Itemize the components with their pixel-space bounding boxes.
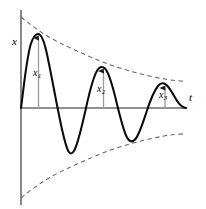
amplitude-label-x1-subscript: 1 xyxy=(37,72,41,80)
t-axis-label: t xyxy=(189,92,192,103)
damped-oscillation-figure: x t x1 x2 x3 xyxy=(0,0,206,209)
amplitude-label-x2: x2 xyxy=(97,84,105,96)
amplitude-label-x3-subscript: 3 xyxy=(163,94,167,102)
amplitude-label-x3: x3 xyxy=(159,90,167,102)
amplitude-label-x2-subscript: 2 xyxy=(101,88,105,96)
amplitude-label-x1: x1 xyxy=(33,68,41,80)
lower-envelope-curve xyxy=(21,134,186,198)
plot-canvas xyxy=(0,0,206,209)
x-axis-label: x xyxy=(12,36,17,47)
